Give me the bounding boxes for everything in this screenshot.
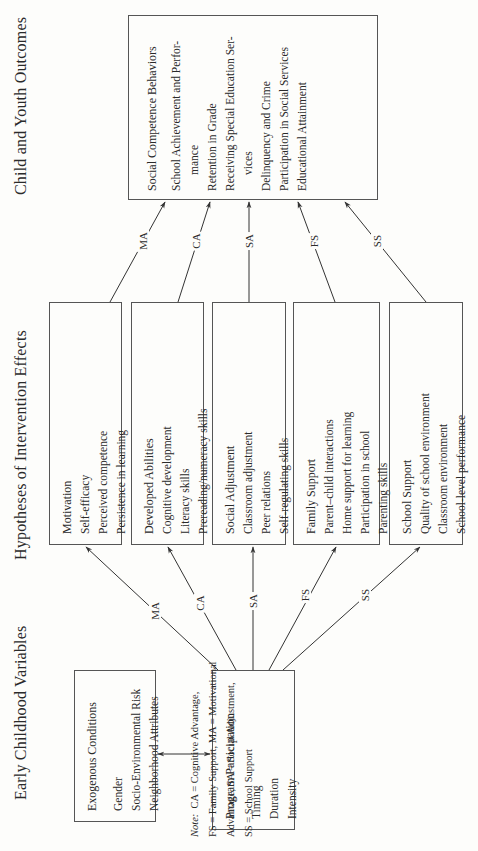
box-item: Gender	[109, 681, 127, 811]
box-item: Educational Attainment	[293, 24, 311, 191]
box-item: Parent–child interactions	[320, 313, 338, 534]
social-adjustment-box: Social Adjustment Classroom adjustment P…	[212, 302, 286, 545]
box-item: Self-regulating skills	[275, 313, 293, 534]
box-item: Persistence in learning	[112, 313, 130, 534]
box-item: mance	[185, 24, 203, 191]
box-item: Classroom environment	[434, 313, 452, 534]
box-heading: Motivation	[58, 313, 76, 534]
abbreviation-note: Note: CA = Cognitive Advantage, FS = Fam…	[186, 662, 258, 838]
box-item: School Achievement and Perfor-	[167, 24, 185, 191]
box-item: Neighborhood Attributes	[145, 681, 163, 811]
box-item: School-level performance	[452, 313, 470, 534]
box-item: Receiving Special Education Ser-	[221, 24, 239, 191]
box-item: Retention in Grade	[203, 24, 221, 191]
box-heading: Family Support	[302, 313, 320, 534]
note-line: Advantage, SA = Social Adjustment,	[222, 662, 240, 838]
box-item: Socio-Environmental Risk	[127, 681, 145, 811]
note-line: SS = School Support	[240, 662, 258, 838]
school-support-box: School Support Quality of school environ…	[389, 302, 463, 545]
exogenous-conditions-box: Exogenous Conditions Gender Socio-Enviro…	[74, 670, 156, 822]
family-support-box: Family Support Parent–child interactions…	[293, 302, 380, 545]
path-label-ma-right: MA	[137, 230, 149, 252]
box-item: Quality of school environment	[416, 313, 434, 534]
box-item: Literacy skills	[176, 313, 194, 534]
box-heading: Social Competence Behaviors	[143, 24, 161, 191]
box-heading: Developed Abilities	[140, 313, 158, 534]
path-label-sa-left: SA	[247, 592, 259, 610]
box-item: Participation in school	[356, 313, 374, 534]
diagram-canvas: Early Childhood Variables Hypotheses of …	[0, 0, 478, 851]
column-title-outcomes: Child and Youth Outcomes	[12, 17, 30, 195]
box-item: Delinquency and Crime	[257, 24, 275, 191]
developed-abilities-box: Developed Abilities Cognitive developmen…	[131, 302, 204, 545]
path-label-fs-right: FS	[308, 233, 320, 249]
note-line: CA = Cognitive Advantage,	[189, 692, 200, 809]
box-item: Self-efficacy	[76, 313, 94, 534]
motivation-box: Motivation Self-efficacy Perceived compe…	[49, 302, 122, 545]
box-item: Prereading/numeracy skills	[194, 313, 212, 534]
box-item: Intensity	[283, 681, 301, 819]
box-heading: Exogenous Conditions	[83, 681, 101, 811]
path-label-sa-right: SA	[243, 232, 255, 250]
box-item: Perceived competence	[94, 313, 112, 534]
box-item: Duration	[265, 681, 283, 819]
path-label-ca-right: CA	[190, 231, 202, 250]
box-item: Peer relations	[257, 313, 275, 534]
path-label-ma-left: MA	[149, 600, 161, 622]
box-item: Classroom adjustment	[239, 313, 257, 534]
note-line: FS = Family Support, MA = Motivational	[204, 662, 222, 838]
social-competence-box: Social Competence Behaviors School Achie…	[128, 15, 378, 200]
box-item: vices	[239, 24, 257, 191]
path-label-fs-left: FS	[299, 587, 311, 603]
box-heading: School Support	[398, 313, 416, 534]
path-label-ss-right: SS	[371, 233, 383, 249]
box-heading: Social Adjustment	[221, 313, 239, 534]
note-prefix: Note:	[189, 814, 200, 837]
path-label-ss-left: SS	[359, 587, 371, 603]
box-item: Participation in Social Services	[275, 24, 293, 191]
column-title-hypotheses: Hypotheses of Intervention Effects	[12, 330, 30, 560]
path-label-ca-left: CA	[194, 593, 206, 612]
column-title-early-childhood: Early Childhood Variables	[12, 626, 30, 800]
box-item: Home support for learning	[338, 313, 356, 534]
box-item: Cognitive development	[158, 313, 176, 534]
